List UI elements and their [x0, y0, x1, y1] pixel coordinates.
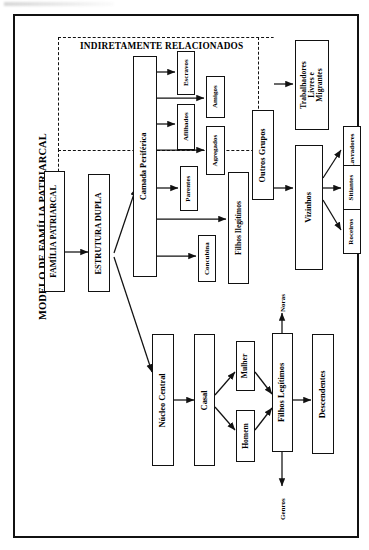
- node-label: Filhos Ilegítimos: [235, 201, 243, 255]
- node-label: Sitiantes: [348, 175, 355, 201]
- node-label: Roceiros: [348, 219, 355, 245]
- node-label: Escravos: [182, 60, 189, 87]
- node-label: Vizinhos: [305, 192, 314, 223]
- node-label: Mulher: [242, 354, 250, 378]
- node-camada-periferica[interactable]: Camada Periférica: [133, 56, 157, 277]
- group-label-indiretamente: INDIRETAMENTE RELACIONADOS: [80, 41, 243, 51]
- node-trabalhadores-livres-migrantes[interactable]: Trabalhadores Livres e Migrantes: [295, 40, 329, 130]
- node-label: ESTRUTURA DUPLA: [95, 192, 104, 274]
- edge-label-noras: Noras: [279, 294, 287, 312]
- node-escravos[interactable]: Escravos: [177, 51, 195, 95]
- node-afilhados[interactable]: Afilhados: [177, 104, 195, 150]
- scan-artifact: [4, 2, 114, 6]
- node-label: Outros Grupos: [259, 128, 268, 182]
- node-filhos-ilegitimos[interactable]: Filhos Ilegítimos: [228, 172, 249, 284]
- node-label: Concubina: [203, 242, 210, 275]
- edge-label-genros: Genros: [279, 498, 287, 520]
- node-homem[interactable]: Homem: [236, 410, 255, 462]
- node-label: Homem: [242, 423, 250, 449]
- node-roceiros[interactable]: Roceiros: [343, 209, 361, 254]
- node-descendentes[interactable]: Descendentes: [312, 334, 334, 454]
- node-label: Camada Periférica: [141, 133, 150, 201]
- node-casal[interactable]: Casal: [194, 334, 215, 466]
- node-filhos-legitimos[interactable]: Filhos Legítimos: [272, 333, 293, 452]
- node-estrutura-dupla[interactable]: ESTRUTURA DUPLA: [88, 174, 110, 292]
- node-label: Descendentes: [319, 370, 328, 418]
- node-label: Afilhados: [182, 113, 189, 142]
- node-label: Amigos: [212, 86, 219, 109]
- node-familia-patriarcal[interactable]: FAMÍLIA PATRIARCAL: [44, 171, 65, 292]
- node-agregados[interactable]: Agregados: [206, 126, 225, 175]
- node-label: Casal: [200, 390, 209, 410]
- node-label: Trabalhadores Livres e Migrantes: [300, 61, 324, 108]
- node-nucleo-central[interactable]: Núcleo Central: [152, 334, 174, 466]
- node-vizinhos[interactable]: Vizinhos: [295, 145, 323, 270]
- diagram-canvas: MODELO DE FAMÍLIA PATRIARCAL INDIRETAMEN…: [0, 0, 369, 550]
- node-label: Lavradores: [348, 134, 355, 168]
- node-label: FAMÍLIA PATRIARCAL: [50, 185, 59, 278]
- node-parentes[interactable]: Parentes: [180, 166, 198, 211]
- node-mulher[interactable]: Mulher: [236, 341, 255, 391]
- node-concubina[interactable]: Concubina: [198, 235, 216, 282]
- group-indiretamente-relacionados: [58, 37, 274, 151]
- node-label: Filhos Legítimos: [278, 363, 287, 422]
- node-amigos[interactable]: Amigos: [206, 76, 225, 118]
- node-sitiantes[interactable]: Sitiantes: [343, 165, 361, 211]
- node-label: Núcleo Central: [159, 373, 168, 427]
- node-label: Parentes: [185, 176, 192, 202]
- node-outros-grupos[interactable]: Outros Grupos: [252, 110, 274, 200]
- node-label: Agregados: [212, 135, 219, 167]
